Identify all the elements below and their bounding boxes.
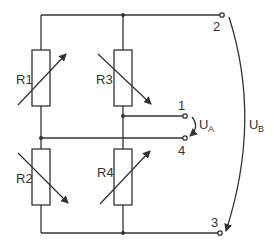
- resistor-body: [32, 50, 50, 106]
- resistor-label: R4: [97, 165, 114, 180]
- junction-dot: [121, 114, 125, 118]
- junctions: [39, 13, 125, 235]
- terminal-circle: [218, 231, 222, 235]
- terminal-label: 4: [178, 143, 185, 158]
- terminal-circle: [183, 114, 187, 118]
- resistor-label: R3: [96, 72, 113, 87]
- voltage-arrow-icon: [190, 117, 196, 136]
- junction-dot: [121, 13, 125, 17]
- resistor-r1: R1: [16, 50, 66, 106]
- voltage-label-main: U: [199, 117, 208, 132]
- junction-dot: [121, 231, 125, 235]
- terminal-circle: [220, 13, 224, 17]
- voltage-ub: U B: [226, 17, 264, 231]
- resistor-r2: R2: [16, 149, 68, 205]
- terminal-4: 4: [178, 136, 187, 158]
- terminal-circle: [183, 136, 187, 140]
- voltage-label-sub: B: [258, 124, 264, 134]
- resistor-r3: R3: [96, 50, 151, 106]
- junction-dot: [39, 136, 43, 140]
- terminal-3: 3: [211, 215, 222, 235]
- resistor-body: [114, 149, 132, 205]
- resistor-label: R2: [16, 171, 33, 186]
- resistor-label: R1: [16, 72, 33, 87]
- voltage-ua: U A: [190, 117, 214, 136]
- terminal-1: 1: [178, 98, 187, 118]
- terminal-label: 1: [178, 98, 185, 113]
- voltage-label-main: U: [249, 117, 258, 132]
- terminal-label: 3: [211, 215, 218, 230]
- resistor-body: [32, 149, 50, 205]
- terminal-2: 2: [213, 13, 224, 34]
- terminal-label: 2: [213, 19, 220, 34]
- resistor-r4: R4: [97, 149, 150, 205]
- voltage-label-sub: A: [208, 124, 214, 134]
- bridge-circuit: R1 R2 R3 R4 2 1 4 3 U A U B: [0, 0, 274, 248]
- voltage-arrow-icon: [226, 17, 245, 231]
